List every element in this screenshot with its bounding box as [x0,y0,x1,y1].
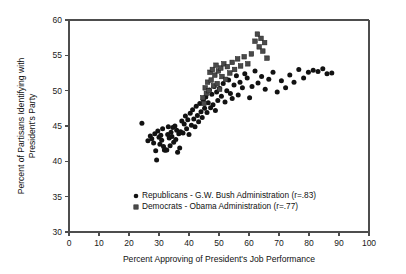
data-point-circle [169,130,174,135]
data-point-square [215,81,220,86]
data-point-square [253,39,258,44]
data-point-square [223,77,228,82]
data-point-circle [199,109,204,114]
x-tick-label: 60 [244,238,254,248]
data-point-circle [153,148,158,153]
data-point-circle [256,80,261,85]
data-point-circle [301,75,306,80]
plot-canvas: 30354045505560 0102030405060708090100 Re… [0,0,406,274]
data-point-circle [185,117,190,122]
data-point-square [201,95,206,100]
x-tick-label: 0 [67,238,72,248]
data-point-circle [296,67,301,72]
data-point-square [228,71,233,76]
data-point-circle [196,119,201,124]
data-point-circle [271,70,276,75]
y-tick-label: 55 [53,50,63,60]
x-tick-label: 50 [214,238,224,248]
data-point-square [225,64,230,69]
legend-label: Democrats - Obama Administration (r=.77) [142,201,298,211]
x-tick-label: 30 [154,238,164,248]
data-point-square [207,88,212,93]
y-axis-title-line-2: President's Party [27,93,37,158]
data-point-circle [223,99,228,104]
y-tick-label: 30 [53,227,63,237]
data-point-circle [139,121,144,126]
data-point-square [209,78,214,83]
data-point-circle [245,75,250,80]
data-point-square [259,36,264,41]
data-point-square [262,40,267,45]
data-point-square [261,49,266,54]
data-point-circle [158,133,163,138]
x-tick-label: 70 [274,238,284,248]
data-point-circle [228,91,233,96]
data-point-circle [202,106,207,111]
data-point-square [249,52,254,57]
x-tick-label: 20 [124,238,134,248]
data-point-circle [320,66,325,71]
data-point-circle [316,69,321,74]
data-point-circle [219,94,224,99]
data-point-circle [184,126,189,131]
data-point-square [235,57,240,62]
data-point-circle [175,150,180,155]
y-axis-title-line-1: Percent of Partisans Identifying with [16,57,26,194]
data-point-circle [325,71,330,76]
data-point-circle [311,68,316,73]
data-point-circle [238,80,243,85]
data-point-circle [155,128,160,133]
data-point-circle [253,68,258,73]
data-point-square [255,32,260,37]
data-point-circle [195,113,200,118]
data-points-layer [139,32,334,163]
data-point-circle [193,124,198,129]
data-point-circle [187,132,192,137]
x-tick-label: 40 [184,238,194,248]
legend-marker-square [134,205,138,209]
data-point-square [217,87,222,92]
y-tick-label: 45 [53,121,63,131]
data-point-circle [200,115,205,120]
x-axis-ticks: 0102030405060708090100 [67,232,377,248]
data-point-square [246,62,251,67]
data-point-circle [292,80,297,85]
data-point-circle [279,78,284,83]
y-tick-label: 60 [53,15,63,25]
data-point-square [257,45,262,50]
data-point-square [214,63,219,68]
data-point-square [230,60,235,65]
data-point-square [210,67,215,72]
data-point-circle [232,83,237,88]
data-point-circle [190,107,195,112]
data-point-circle [151,140,156,145]
data-point-circle [166,124,171,129]
series-republicans [139,66,334,162]
plot-axes [69,20,369,232]
x-tick-label: 80 [304,238,314,248]
data-point-circle [263,87,268,92]
data-point-circle [247,95,252,100]
data-point-circle [177,145,182,150]
data-point-circle [236,92,241,97]
data-point-circle [159,138,164,143]
data-point-square [265,56,270,61]
x-tick-label: 100 [362,238,376,248]
data-point-circle [283,85,288,90]
data-point-circle [234,73,239,78]
data-point-circle [154,157,159,162]
data-point-circle [230,96,235,101]
data-point-circle [259,74,264,79]
y-axis-title: Percent of Partisans Identifying with Pr… [16,57,37,194]
data-point-circle [205,110,210,115]
data-point-circle [215,98,220,103]
chart-legend: Republicans - G.W. Bush Administration (… [134,190,317,211]
data-point-square [219,66,224,71]
data-point-circle [160,126,165,131]
data-point-circle [242,71,247,76]
data-point-circle [213,108,218,113]
data-point-square [238,64,243,69]
legend-marker-circle [134,194,139,199]
x-tick-label: 10 [94,238,104,248]
y-tick-label: 40 [53,156,63,166]
